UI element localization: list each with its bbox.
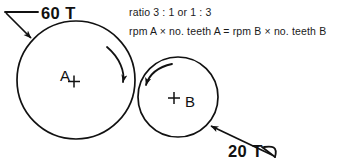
formula-text-block: ratio 3 : 1 or 1 : 3 rpm A × no. teeth A… xyxy=(129,3,337,41)
ratio-line: ratio 3 : 1 or 1 : 3 xyxy=(129,3,337,22)
gear-a-rotation-arrow-icon xyxy=(107,47,123,82)
gear-b-center-cross-icon xyxy=(168,92,180,104)
gear-a-circle xyxy=(17,21,135,139)
gear-a-callout-leader xyxy=(5,12,38,38)
formula-line: rpm A × no. teeth A = rpm B × no. teeth … xyxy=(129,22,337,41)
gear-a-label: A xyxy=(60,67,70,84)
gear-b-rotation-arrow-icon xyxy=(146,64,172,85)
gear-b-label: B xyxy=(185,93,195,110)
gear-b-circle xyxy=(138,57,218,137)
gear-ratio-diagram: ratio 3 : 1 or 1 : 3 rpm A × no. teeth A… xyxy=(0,0,338,168)
gear-a-teeth-label: 60 T xyxy=(41,4,76,23)
gear-b-teeth-label: 20 T xyxy=(228,142,263,161)
